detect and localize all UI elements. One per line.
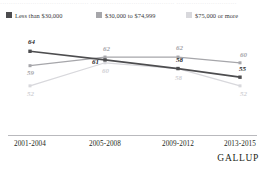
series-marker-1-3	[239, 61, 242, 64]
data-label-s0-p3: 55	[239, 65, 246, 73]
data-label-s1-p0: 59	[27, 69, 34, 77]
series-marker-0-0	[28, 50, 31, 53]
data-label-s0-p0: 64	[28, 38, 35, 46]
x-axis-tick-3: 2013-2015	[212, 139, 265, 149]
data-label-s2-p1: 60	[102, 67, 109, 75]
series-marker-1-0	[29, 64, 32, 67]
data-label-s1-p2: 62	[176, 44, 183, 52]
series-marker-1-1	[104, 56, 107, 59]
legend-label-mid-income: $30,000 to $74,999	[105, 12, 156, 19]
data-label-s2-p3: 52	[240, 90, 247, 98]
data-label-s2-p0: 52	[27, 90, 34, 98]
plot-svg	[0, 24, 265, 132]
x-axis-tick-0: 2001-2004	[2, 139, 58, 149]
series-marker-0-3	[238, 76, 241, 79]
data-label-s2-p2: 58	[175, 74, 182, 82]
legend-swatch-low-income	[6, 12, 12, 18]
legend-item-low-income[interactable]: Less than $30,000	[6, 9, 63, 21]
legend-swatch-high-income	[186, 12, 192, 18]
data-label-s1-p3: 60	[240, 51, 247, 59]
x-axis-tick-1: 2005-2008	[77, 139, 133, 149]
series-marker-0-2	[176, 67, 179, 70]
series-line-0	[30, 51, 240, 77]
x-axis-tick-labels: 2001-20042005-20082009-20122013-2015	[0, 139, 265, 151]
series-marker-2-0	[29, 84, 32, 87]
plot-area: 646158555962626052605852	[0, 24, 265, 132]
series-marker-2-3	[239, 84, 242, 87]
legend-item-mid-income[interactable]: $30,000 to $74,999	[96, 9, 156, 21]
gallup-line-chart: ········································…	[0, 0, 265, 172]
legend-swatch-mid-income	[96, 12, 102, 18]
series-marker-2-1	[104, 61, 107, 64]
legend-item-high-income[interactable]: $75,000 or more	[186, 9, 238, 21]
series-line-2	[30, 63, 240, 86]
series-marker-0-1	[103, 58, 106, 61]
x-axis-rule	[8, 135, 257, 136]
legend-label-low-income: Less than $30,000	[15, 12, 63, 19]
data-label-s1-p1: 62	[103, 45, 110, 53]
gallup-brand-logo: GALLUP	[217, 152, 259, 164]
data-label-s0-p1: 61	[92, 58, 99, 66]
chart-legend: Less than $30,000 $30,000 to $74,999 $75…	[0, 9, 265, 21]
x-axis-tick-2: 2009-2012	[150, 139, 206, 149]
truncated-headline-sliver: ········································…	[0, 0, 265, 7]
data-label-s0-p2: 58	[176, 56, 183, 64]
series-line-1	[30, 57, 240, 66]
legend-label-high-income: $75,000 or more	[195, 12, 238, 19]
